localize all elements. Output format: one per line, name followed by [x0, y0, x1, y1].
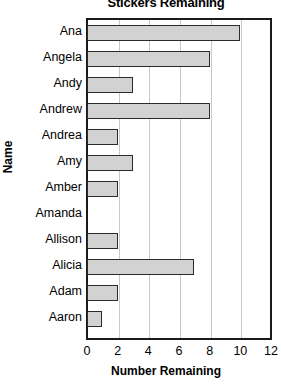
bar[interactable] [87, 181, 118, 197]
x-axis-title: Number Remaining [60, 364, 272, 378]
bars-layer [88, 20, 270, 338]
bar[interactable] [87, 285, 118, 301]
y-axis-tick-label: Allison [0, 226, 82, 252]
bar-row [88, 280, 270, 306]
bar[interactable] [87, 103, 210, 119]
y-axis-tick-label: Andy [0, 70, 82, 96]
bar-row [88, 124, 270, 150]
bar-row [88, 176, 270, 202]
y-axis-tick-label: Adam [0, 278, 82, 304]
bar[interactable] [87, 51, 210, 67]
y-axis-tick-label: Amy [0, 148, 82, 174]
bar[interactable] [87, 259, 194, 275]
bar-row [88, 98, 270, 124]
bar-row [88, 46, 270, 72]
y-axis-tick-label: Angela [0, 44, 82, 70]
bar-row [88, 306, 270, 332]
y-axis-tick-label: Alicia [0, 252, 82, 278]
bar[interactable] [87, 155, 133, 171]
y-axis-tick-label: Amber [0, 174, 82, 200]
bar[interactable] [87, 77, 133, 93]
x-axis-tick-label: 0 [72, 343, 102, 359]
y-axis-tick-label: Ana [0, 18, 82, 44]
y-axis-tick-label: Andrew [0, 96, 82, 122]
x-axis-tick-label: 10 [225, 343, 255, 359]
x-axis-tick-label: 2 [103, 343, 133, 359]
y-axis-tick-label: Aaron [0, 304, 82, 330]
bar-row [88, 72, 270, 98]
x-axis-tick-label: 12 [256, 343, 281, 359]
bar[interactable] [87, 25, 240, 41]
bar-row [88, 254, 270, 280]
y-axis-tick-label: Andrea [0, 122, 82, 148]
bar[interactable] [87, 311, 102, 327]
x-axis-tick-label: 8 [195, 343, 225, 359]
y-axis-tick-labels: AnaAngelaAndyAndrewAndreaAmyAmberAmandaA… [0, 18, 82, 340]
chart-title: Stickers Remaining [60, 0, 272, 10]
y-axis-tick-label: Amanda [0, 200, 82, 226]
x-axis-tick-label: 6 [164, 343, 194, 359]
bar-row [88, 228, 270, 254]
plot-area [86, 18, 272, 340]
bar[interactable] [87, 129, 118, 145]
x-axis-tick-label: 4 [133, 343, 163, 359]
bar[interactable] [87, 233, 118, 249]
x-axis-tick-labels: 024681012 [0, 343, 281, 359]
bar-chart: Stickers Remaining Name AnaAngelaAndyAnd… [0, 0, 281, 386]
bar-row [88, 202, 270, 228]
bar-row [88, 150, 270, 176]
bar-row [88, 20, 270, 46]
